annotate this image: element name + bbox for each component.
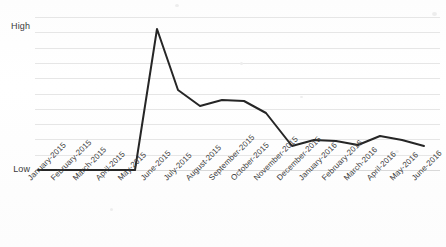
x-axis: January-2015February-2015March-2015April… (0, 170, 446, 247)
line-chart: High Low January-2015February-2015March-… (0, 0, 446, 247)
series-line-trend (38, 29, 424, 170)
